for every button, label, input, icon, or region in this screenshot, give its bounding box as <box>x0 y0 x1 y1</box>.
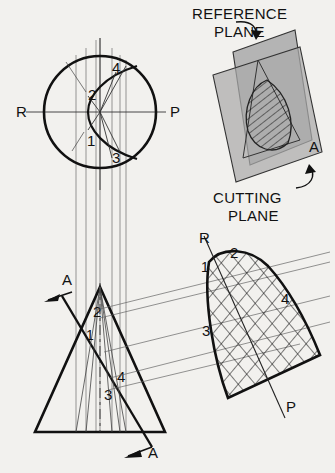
top-view-point-1: 1 <box>87 132 95 149</box>
descriptive-geometry-plate: R P 2 4 3 1 <box>0 0 335 473</box>
section-label-lower-a: A <box>148 444 158 461</box>
front-view-point-1: 1 <box>86 327 94 343</box>
top-view-point-4: 4 <box>112 59 120 76</box>
auxiliary-point-3: 3 <box>202 322 210 339</box>
top-view-point-3: 3 <box>112 149 120 166</box>
pictorial-label-a: A <box>309 138 319 155</box>
cutting-plane-caption-line2: PLANE <box>228 207 279 224</box>
front-view-point-3: 3 <box>104 386 112 403</box>
front-view-point-4: 4 <box>117 368 125 385</box>
auxiliary-point-4: 4 <box>281 290 289 307</box>
top-view-point-2: 2 <box>88 86 96 103</box>
auxiliary-label-r: R <box>199 229 210 246</box>
auxiliary-point-1: 1 <box>201 259 209 275</box>
reference-plane-caption-line1: REFERENCE <box>192 5 287 22</box>
auxiliary-point-2: 2 <box>230 244 238 261</box>
cutting-plane-caption-line1: CUTTING <box>213 189 282 206</box>
section-label-upper-a: A <box>62 271 72 288</box>
reference-plane-caption-line2: PLANE <box>214 23 265 40</box>
front-view-point-2: 2 <box>93 303 101 320</box>
auxiliary-label-p: P <box>286 398 296 415</box>
top-view-label-p: P <box>170 103 180 120</box>
top-view-label-r: R <box>16 103 27 120</box>
